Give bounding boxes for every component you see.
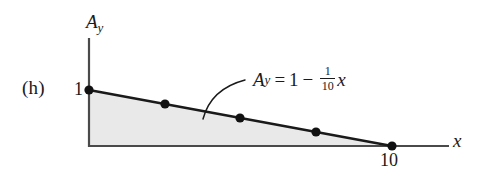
equation-lhs-base: A	[253, 70, 265, 89]
equation-lhs-subscript: y	[265, 73, 271, 86]
data-point-marker	[311, 127, 320, 136]
equation-constant-term: 1	[289, 70, 299, 89]
x-axis-label: x	[453, 131, 461, 150]
data-point-marker	[160, 99, 169, 108]
x-axis-tick-label-10: 10	[380, 151, 398, 169]
equation-variable: x	[337, 70, 345, 89]
fraction-denominator: 10	[321, 79, 335, 92]
fraction-numerator: 1	[324, 65, 332, 78]
figure-container: (h) Ay x 1 10 Ay = 1 − 1 10 x	[0, 0, 489, 189]
y-axis-label-base: A	[86, 11, 98, 32]
data-point-marker	[235, 113, 244, 122]
equation-equals-sign: =	[274, 70, 285, 89]
y-axis-label: Ay	[86, 12, 103, 34]
y-axis-tick-label-1: 1	[74, 80, 83, 98]
equation-fraction: 1 10	[320, 65, 335, 92]
equation-annotation: Ay = 1 − 1 10 x	[253, 66, 346, 93]
subfigure-label: (h)	[22, 78, 45, 97]
y-axis-label-subscript: y	[98, 20, 104, 35]
equation-minus-sign: −	[303, 70, 314, 89]
data-point-marker	[84, 85, 93, 94]
